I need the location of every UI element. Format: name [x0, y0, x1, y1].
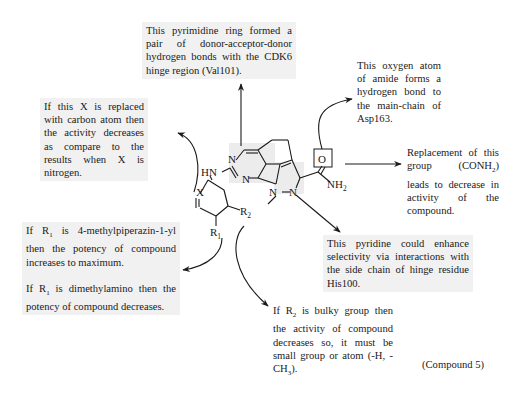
svg-text:NH2: NH2: [327, 178, 347, 193]
svg-text:X: X: [196, 186, 204, 198]
note-x-atom: If this X is replaced with carbon atom t…: [40, 98, 148, 181]
note-oxygen: This oxygen atom of amide forms a hydrog…: [357, 59, 441, 125]
svg-text:N: N: [228, 153, 236, 165]
note-conh2: Replacement of this group (CONH2) leads …: [407, 146, 499, 217]
arrow-oxygen: [318, 99, 352, 149]
compound-caption: (Compound 5): [422, 358, 512, 371]
svg-text:N: N: [269, 186, 277, 198]
svg-text:N: N: [242, 173, 250, 185]
arrow-r1: [183, 238, 222, 270]
svg-text:O: O: [318, 153, 326, 165]
note-pyridine: This pyridine could enhance selectivity …: [323, 235, 473, 292]
svg-text:R1: R1: [210, 226, 221, 241]
svg-text:HN: HN: [201, 166, 217, 178]
note-r2: If R2 is bulky group then the activity o…: [273, 304, 393, 380]
note-r1: If R1 is 4-methylpiperazin-1-yl then the…: [22, 222, 180, 315]
arrow-pyridine: [296, 195, 340, 232]
arrow-x: [178, 133, 198, 192]
svg-text:R2: R2: [240, 205, 251, 220]
arrow-r2: [236, 226, 268, 306]
svg-text:N: N: [289, 186, 297, 198]
note-pyrimidine: This pyrimidine ring formed a pair of do…: [142, 22, 296, 79]
